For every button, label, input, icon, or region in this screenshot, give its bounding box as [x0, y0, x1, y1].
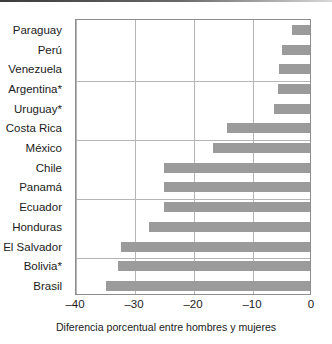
bar-row: [76, 119, 310, 139]
bar-uruguay: [274, 104, 310, 114]
category-label-el-salvador: El Salvador: [0, 237, 70, 257]
bar-row: [76, 40, 310, 60]
bar-argentina: [278, 84, 310, 94]
category-label-panama: Panamá: [0, 178, 70, 198]
axis-caption: Diferencia porcentual entre hombres y mu…: [0, 321, 332, 333]
bar-row: [76, 237, 310, 257]
category-label-mexico: México: [0, 138, 70, 158]
bar-paraguay: [292, 25, 310, 35]
bar-mexico: [213, 143, 310, 153]
xtick-label: –20: [183, 298, 202, 310]
bar-ecuador: [164, 202, 310, 212]
category-label-argentina: Argentina*: [0, 79, 70, 99]
xtick-label: –40: [65, 298, 84, 310]
bar-row: [76, 178, 310, 198]
bar-brasil: [106, 281, 310, 291]
category-label-honduras: Honduras: [0, 217, 70, 237]
bar-row: [76, 256, 310, 276]
bar-row: [76, 59, 310, 79]
bar-chart: Paraguay Perú Venezuela Argentina* Urugu…: [0, 0, 332, 344]
bar-honduras: [149, 222, 310, 232]
bar-el-salvador: [121, 242, 310, 252]
bar-venezuela: [279, 64, 310, 74]
xtick-label: –30: [124, 298, 143, 310]
bar-row: [76, 20, 310, 40]
bar-rows: [76, 20, 310, 294]
bar-row: [76, 217, 310, 237]
category-label-chile: Chile: [0, 158, 70, 178]
bar-bolivia: [118, 261, 310, 271]
bar-peru: [282, 45, 310, 55]
category-label-uruguay: Uruguay*: [0, 99, 70, 119]
category-label-ecuador: Ecuador: [0, 197, 70, 217]
bar-costa-rica: [227, 123, 310, 133]
bar-row: [76, 99, 310, 119]
bar-row: [76, 197, 310, 217]
category-label-paraguay: Paraguay: [0, 20, 70, 40]
category-label-venezuela: Venezuela: [0, 59, 70, 79]
plot-area: Paraguay Perú Venezuela Argentina* Urugu…: [75, 19, 311, 295]
bar-row: [76, 276, 310, 296]
value-axis-ticks: –40 –30 –20 –10 0: [75, 298, 311, 314]
bar-row: [76, 158, 310, 178]
bar-row: [76, 138, 310, 158]
category-axis-labels: Paraguay Perú Venezuela Argentina* Urugu…: [0, 20, 70, 296]
bar-panama: [164, 182, 310, 192]
category-label-peru: Perú: [0, 40, 70, 60]
xtick-label: –10: [242, 298, 261, 310]
category-label-costa-rica: Costa Rica: [0, 119, 70, 139]
bar-row: [76, 79, 310, 99]
bar-chile: [164, 163, 310, 173]
xtick-label: 0: [308, 298, 314, 310]
category-label-brasil: Brasil: [0, 276, 70, 296]
category-label-bolivia: Bolivia*: [0, 256, 70, 276]
